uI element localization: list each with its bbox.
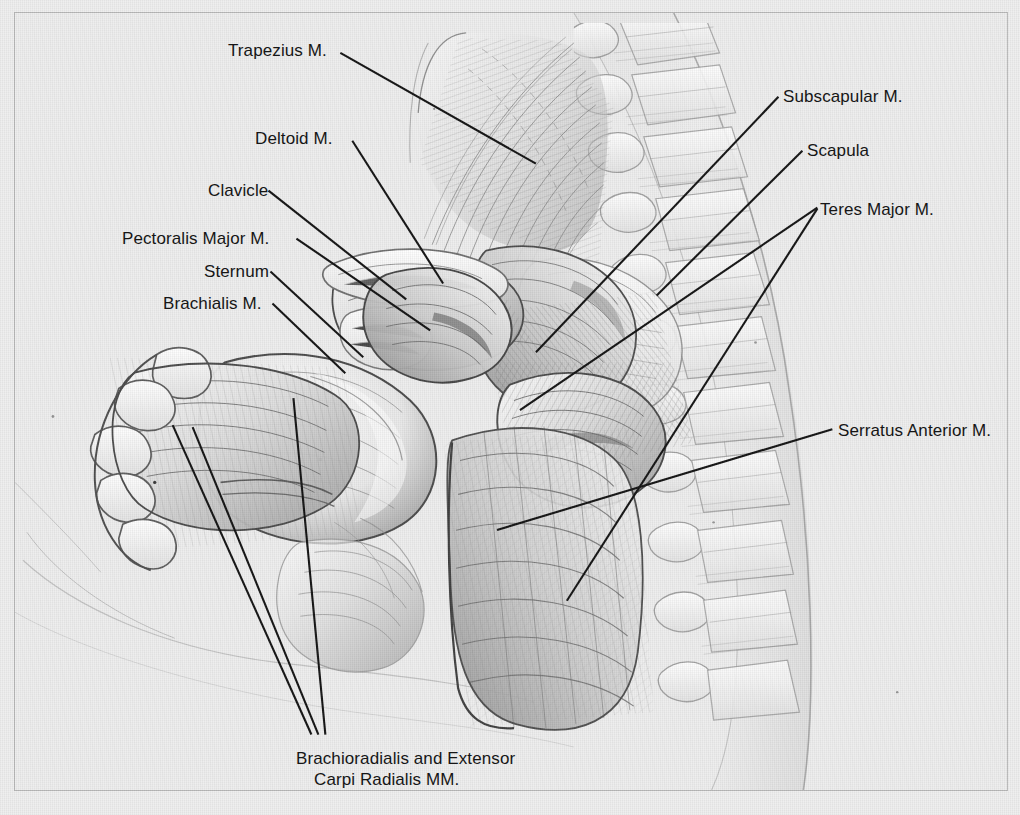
label-subscapular: Subscapular M. <box>783 86 903 107</box>
label-clavicle: Clavicle <box>208 180 268 201</box>
label-trapezius: Trapezius M. <box>228 40 327 61</box>
anatomy-plate: Trapezius M. Subscapular M. Deltoid M. S… <box>0 0 1020 815</box>
label-scapula: Scapula <box>807 140 869 161</box>
label-sternum: Sternum <box>204 261 269 282</box>
label-teres-major: Teres Major M. <box>820 199 934 220</box>
label-serratus-anterior: Serratus Anterior M. <box>838 420 991 441</box>
label-pectoralis-major: Pectoralis Major M. <box>122 228 269 249</box>
caption-brachioradialis-line1: Brachioradialis and Extensor <box>296 748 515 769</box>
label-layer: Trapezius M. Subscapular M. Deltoid M. S… <box>0 0 1020 815</box>
label-brachialis: Brachialis M. <box>163 293 262 314</box>
caption-brachioradialis-line2: Carpi Radialis MM. <box>314 769 459 790</box>
label-deltoid: Deltoid M. <box>255 128 333 149</box>
